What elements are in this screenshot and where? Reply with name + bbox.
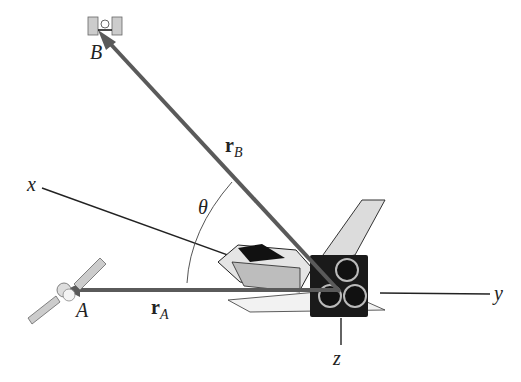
- vector-rB-label: rB: [225, 135, 242, 160]
- vector-rA-label: rA: [151, 297, 168, 322]
- z-axis-label: z: [333, 348, 341, 368]
- space-shuttle: [218, 200, 385, 317]
- point-b-label: B: [90, 42, 102, 62]
- satellite-b-icon: [88, 17, 122, 35]
- y-axis-label: y: [494, 283, 503, 303]
- vector-rB-sub: B: [234, 145, 243, 160]
- diagram-canvas: B A x y z θ rB rA: [0, 0, 521, 382]
- x-axis-label: x: [27, 174, 36, 194]
- point-a-label: A: [76, 300, 88, 320]
- y-axis-line: [380, 293, 490, 294]
- vector-rB-main: r: [225, 134, 234, 156]
- vector-rB: [105, 38, 340, 292]
- theta-label: θ: [198, 197, 208, 217]
- vector-rA-main: r: [151, 296, 160, 318]
- diagram-svg: [0, 0, 521, 382]
- vector-rA-sub: A: [160, 307, 169, 322]
